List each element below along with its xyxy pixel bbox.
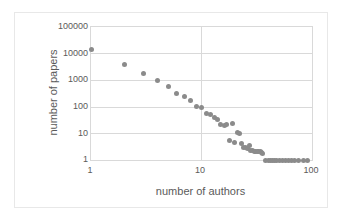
x-tick-1: 1 (70, 165, 110, 175)
x-axis-title: number of authors (90, 185, 311, 197)
chart-figure: number of papers 100000 10000 1000 100 1… (14, 12, 328, 208)
x-tick-10: 10 (180, 165, 220, 175)
x-tick-100: 100 (291, 165, 331, 175)
x-axis-tick-labels: 1 10 100 (15, 13, 329, 209)
